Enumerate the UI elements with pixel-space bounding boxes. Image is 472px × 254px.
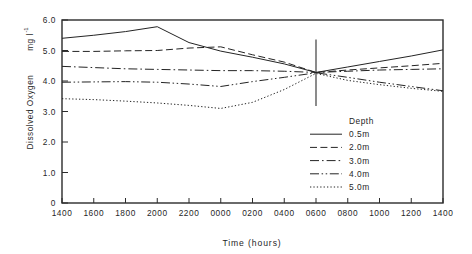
legend-label-3-0m: 3.0m	[349, 156, 370, 166]
x-tick-label: 1200	[401, 208, 422, 218]
y-tick-label: 2.0	[43, 137, 56, 147]
x-axis-title-text: Time (hours)	[222, 238, 281, 248]
x-tick-label: 0000	[210, 208, 231, 218]
data-series-group	[62, 27, 443, 109]
y-axis-ticks	[62, 20, 68, 203]
dissolved-oxygen-line-chart: 01.02.03.04.05.06.0 14001600180020002200…	[0, 0, 472, 254]
x-tick-label: 0200	[242, 208, 263, 218]
legend-label-4-0m: 4.0m	[349, 169, 370, 179]
legend-label-0-5m: 0.5m	[349, 129, 370, 139]
y-tick-label: 0	[51, 198, 56, 208]
legend-label-5-0m: 5.0m	[349, 182, 370, 192]
x-tick-label: 1600	[83, 208, 104, 218]
y-tick-label: 1.0	[43, 168, 56, 178]
x-tick-label: 1800	[115, 208, 136, 218]
x-tick-label: 1400	[433, 208, 454, 218]
x-tick-label: 1000	[369, 208, 390, 218]
legend: Depth0.5m2.0m3.0m4.0m5.0m	[310, 116, 374, 192]
series-line-4-0m	[62, 73, 443, 91]
x-tick-label: 2000	[147, 208, 168, 218]
y-axis-units: mg l	[25, 33, 35, 51]
chart-figure: 01.02.03.04.05.06.0 14001600180020002200…	[0, 0, 472, 254]
y-axis-units-exponent: -1	[23, 27, 29, 32]
y-axis-title: Dissolved Oxygen	[25, 75, 35, 150]
x-tick-label: 2200	[179, 208, 200, 218]
series-line-5-0m	[62, 73, 443, 108]
x-tick-label: 0400	[274, 208, 295, 218]
y-tick-label: 4.0	[43, 76, 56, 86]
legend-label-2-0m: 2.0m	[349, 142, 370, 152]
series-line-0-5m	[62, 27, 443, 73]
x-axis-tick-labels: 1400160018002000220000000200040006000800…	[52, 208, 454, 218]
y-axis-units-text: mg l	[25, 33, 35, 51]
x-tick-label: 1400	[52, 208, 73, 218]
y-axis-tick-labels: 01.02.03.04.05.06.0	[43, 15, 56, 208]
x-tick-label: 0800	[337, 208, 358, 218]
y-tick-label: 6.0	[43, 15, 56, 25]
y-tick-label: 3.0	[43, 107, 56, 117]
plot-frame-rect	[62, 20, 443, 203]
y-axis-units-exponent-text: -1	[23, 27, 29, 32]
x-tick-label: 0600	[306, 208, 327, 218]
plot-frame	[62, 20, 443, 203]
legend-title: Depth	[349, 116, 374, 126]
x-axis-ticks	[62, 198, 443, 203]
y-axis-title-text: Dissolved Oxygen	[25, 75, 35, 150]
y-tick-label: 5.0	[43, 46, 56, 56]
